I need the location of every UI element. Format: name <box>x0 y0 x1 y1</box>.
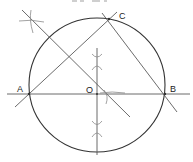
point-A <box>28 93 30 95</box>
construction-arcs-top-left <box>19 10 44 33</box>
cropped-caption-fragment <box>72 0 107 2</box>
point-C <box>108 18 110 20</box>
point-O <box>96 93 98 95</box>
geometry-diagram: A B C O <box>0 0 193 162</box>
construction-arcs-near-O <box>100 90 125 104</box>
label-A: A <box>17 84 23 94</box>
label-O: O <box>86 85 93 95</box>
perp-bisector-AC <box>22 10 130 117</box>
label-C: C <box>119 11 126 21</box>
point-B <box>164 93 166 95</box>
label-B: B <box>170 84 176 94</box>
line-CB <box>102 13 177 112</box>
